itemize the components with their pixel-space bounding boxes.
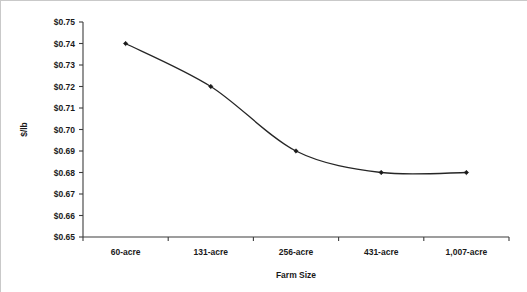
series-data-point-marker	[379, 170, 383, 174]
y-axis-tick-label: $0.68	[54, 168, 76, 178]
y-axis-tick-label: $0.73	[54, 60, 76, 70]
y-axis-tick-label: $0.69	[54, 146, 76, 156]
series-data-point-marker	[464, 170, 468, 174]
x-axis-tick-label: 1,007-acre	[446, 247, 488, 257]
x-axis-tick-label: 60-acre	[111, 247, 141, 257]
y-axis-tick-label: $0.70	[54, 125, 76, 135]
x-axis-tick-label: 131-acre	[194, 247, 229, 257]
y-axis-title: $/lb	[19, 122, 29, 137]
y-axis-tick-label: $0.75	[54, 17, 76, 27]
series-data-point-marker	[123, 41, 127, 45]
line-chart-figure: $0.75$0.74$0.73$0.72$0.71$0.70$0.69$0.68…	[0, 0, 527, 292]
y-axis-tick-label: $0.65	[54, 232, 76, 242]
series-line-path	[126, 44, 467, 175]
x-axis-tick-label: 256-acre	[279, 247, 314, 257]
x-axis-tick-label: 431-acre	[364, 247, 399, 257]
chart-canvas: $0.75$0.74$0.73$0.72$0.71$0.70$0.69$0.68…	[1, 1, 527, 292]
y-axis-tick-label: $0.66	[54, 211, 76, 221]
y-axis-tick-label: $0.72	[54, 82, 76, 92]
y-axis-tick-label: $0.67	[54, 189, 76, 199]
y-axis-tick-label: $0.71	[54, 103, 76, 113]
x-axis-title: Farm Size	[276, 270, 316, 280]
y-axis-tick-label: $0.74	[54, 39, 76, 49]
